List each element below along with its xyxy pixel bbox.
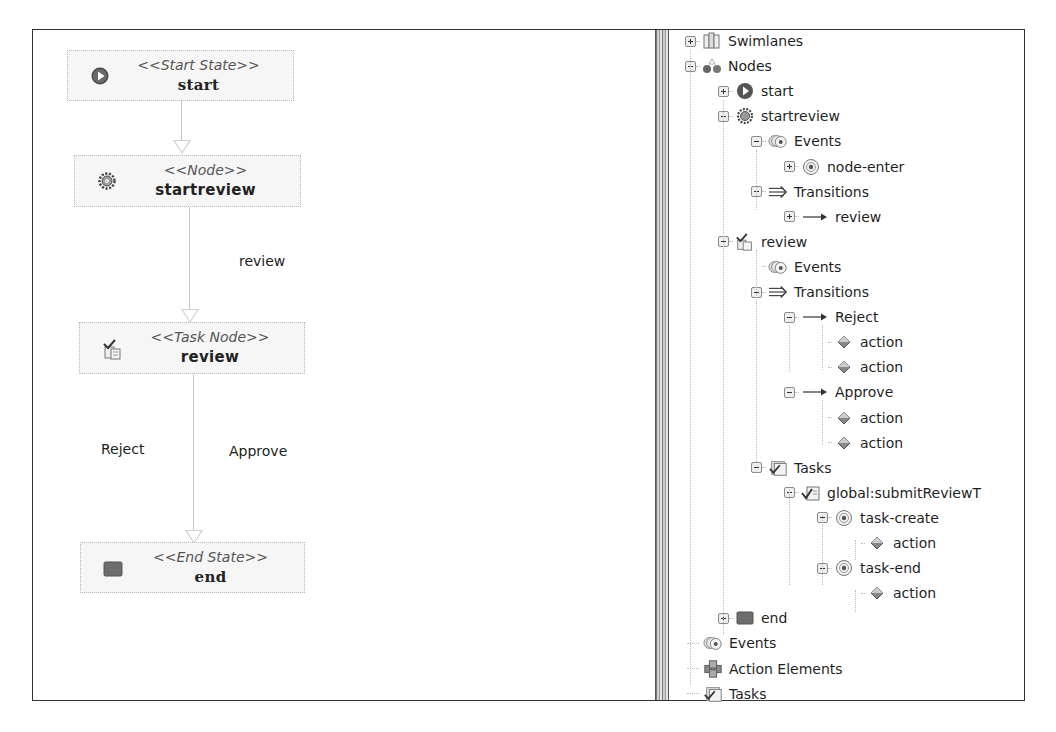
tree-item[interactable]: Events bbox=[751, 256, 841, 278]
tree-guide-line bbox=[861, 543, 865, 544]
node-name: start bbox=[68, 76, 293, 94]
tree-item-label: node-enter bbox=[827, 159, 904, 175]
collapse-toggle[interactable] bbox=[751, 136, 762, 147]
tree-guide-line bbox=[855, 590, 856, 612]
tree-guide-line bbox=[729, 618, 733, 619]
tree-item-label: Tasks bbox=[794, 460, 832, 476]
tree-item-label: Transitions bbox=[794, 184, 869, 200]
outline-tree: SwimlanesNodesstartstartreviewEventsnode… bbox=[669, 30, 1024, 700]
tree-item[interactable]: Events bbox=[751, 130, 841, 152]
expand-toggle[interactable] bbox=[784, 161, 795, 172]
tree-guide-line bbox=[861, 593, 865, 594]
transition-line[interactable] bbox=[181, 101, 182, 141]
tree-item-label: task-end bbox=[860, 560, 921, 576]
process-designer-window: review Reject Approve <<Start State>> st… bbox=[32, 29, 1025, 701]
event-icon bbox=[834, 509, 854, 527]
transition-label-approve[interactable]: Approve bbox=[229, 443, 287, 459]
transitions-icon bbox=[768, 183, 788, 201]
action-icon bbox=[834, 358, 854, 376]
nodes-icon bbox=[702, 57, 722, 75]
tree-item[interactable]: action bbox=[817, 407, 903, 429]
expand-toggle[interactable] bbox=[784, 211, 795, 222]
tree-item-label: Reject bbox=[835, 309, 878, 325]
tree-item-label: Swimlanes bbox=[728, 33, 803, 49]
diagram-canvas[interactable]: review Reject Approve <<Start State>> st… bbox=[33, 30, 655, 700]
tree-item[interactable]: task-create bbox=[817, 507, 939, 529]
tree-item-label: action bbox=[860, 410, 903, 426]
tree-guide-line bbox=[762, 467, 766, 468]
tree-item[interactable]: Transitions bbox=[751, 181, 869, 203]
tree-item-label: action bbox=[860, 334, 903, 350]
tree-item[interactable]: review bbox=[718, 231, 807, 253]
tree-item[interactable]: Action Elements bbox=[703, 658, 843, 680]
tree-item-label: Action Elements bbox=[729, 661, 843, 677]
node-stereotype: <<End State>> bbox=[81, 549, 304, 565]
node-name: end bbox=[81, 568, 304, 586]
tree-guide-line bbox=[687, 693, 699, 694]
tree-guide-line bbox=[762, 266, 766, 267]
tree-item[interactable]: action bbox=[817, 356, 903, 378]
tree-item[interactable]: review bbox=[784, 206, 881, 228]
tree-item[interactable]: Tasks bbox=[703, 683, 767, 705]
tasks-icon bbox=[768, 459, 788, 477]
arrow-right-icon bbox=[801, 383, 829, 401]
tree-item[interactable]: start bbox=[718, 80, 794, 102]
tree-item-label: global:submitReviewT bbox=[827, 485, 981, 501]
tree-item[interactable]: Approve bbox=[784, 381, 893, 403]
transition-arrowhead bbox=[173, 140, 191, 154]
tree-item[interactable]: end bbox=[718, 607, 787, 629]
tree-item[interactable]: Swimlanes bbox=[685, 30, 803, 52]
tasks-icon bbox=[703, 685, 723, 703]
expand-toggle[interactable] bbox=[718, 86, 729, 97]
panel-splitter[interactable] bbox=[655, 30, 669, 700]
tree-guide-line bbox=[795, 216, 799, 217]
action-icon bbox=[834, 333, 854, 351]
tree-item-label: action bbox=[893, 585, 936, 601]
diagram-node-startreview[interactable]: <<Node>> startreview bbox=[74, 155, 301, 207]
diagram-node-start[interactable]: <<Start State>> start bbox=[67, 50, 294, 101]
end-state-icon bbox=[735, 609, 755, 627]
transition-label-review[interactable]: review bbox=[239, 253, 285, 269]
transition-line[interactable] bbox=[189, 207, 190, 312]
tree-item[interactable]: task-end bbox=[817, 557, 921, 579]
transition-arrowhead bbox=[181, 309, 199, 323]
transition-label-reject[interactable]: Reject bbox=[101, 441, 144, 457]
diagram-node-end[interactable]: <<End State>> end bbox=[80, 542, 305, 593]
tree-item[interactable]: Events bbox=[703, 632, 776, 654]
tree-item[interactable]: Transitions bbox=[751, 281, 869, 303]
tree-item-label: action bbox=[860, 359, 903, 375]
transitions-icon bbox=[768, 283, 788, 301]
task-icon bbox=[801, 484, 821, 502]
tree-guide-line bbox=[729, 116, 733, 117]
tree-item-label: start bbox=[761, 83, 794, 99]
tree-item[interactable]: node-enter bbox=[784, 156, 904, 178]
tree-guide-line bbox=[762, 191, 766, 192]
diagram-node-review[interactable]: <<Task Node>> review bbox=[79, 322, 305, 374]
tree-item[interactable]: startreview bbox=[718, 105, 840, 127]
transition-line[interactable] bbox=[193, 374, 194, 534]
event-icon bbox=[834, 559, 854, 577]
tree-item-label: task-create bbox=[860, 510, 939, 526]
tree-item[interactable]: Nodes bbox=[685, 55, 772, 77]
tree-item[interactable]: action bbox=[817, 331, 903, 353]
action-elements-icon bbox=[703, 660, 723, 678]
collapse-toggle[interactable] bbox=[751, 462, 762, 473]
tree-item-label: Events bbox=[794, 259, 841, 275]
tree-guide-line bbox=[822, 515, 823, 585]
expand-toggle[interactable] bbox=[685, 36, 696, 47]
tree-guide-line bbox=[828, 342, 832, 343]
tree-item[interactable]: action bbox=[850, 582, 936, 604]
tree-item[interactable]: action bbox=[817, 432, 903, 454]
tree-item-label: Nodes bbox=[728, 58, 772, 74]
tree-item[interactable]: Reject bbox=[784, 306, 878, 328]
collapse-toggle[interactable] bbox=[784, 387, 795, 398]
node-name: startreview bbox=[75, 181, 300, 199]
tree-item[interactable]: action bbox=[850, 532, 936, 554]
tree-guide-line bbox=[789, 325, 790, 372]
tree-guide-line bbox=[855, 540, 856, 560]
tree-guide-line bbox=[687, 668, 699, 669]
action-icon bbox=[867, 534, 887, 552]
tree-item[interactable]: Tasks bbox=[751, 457, 832, 479]
collapse-toggle[interactable] bbox=[784, 312, 795, 323]
tree-item[interactable]: global:submitReviewT bbox=[784, 482, 981, 504]
